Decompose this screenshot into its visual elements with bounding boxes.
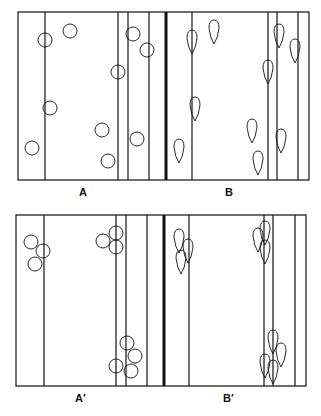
drop-particle — [209, 20, 219, 44]
round-particle — [28, 257, 42, 271]
round-particle — [63, 24, 77, 38]
round-particle — [128, 349, 142, 363]
drop-particle — [253, 228, 263, 252]
label-A-prime: A′ — [75, 392, 86, 404]
round-particle — [120, 336, 134, 350]
round-particle — [95, 123, 109, 137]
particles — [24, 20, 300, 384]
round-particle — [96, 234, 110, 248]
frames — [16, 12, 309, 386]
round-particle — [101, 154, 115, 168]
round-particle — [36, 244, 50, 258]
label-A: A — [79, 186, 87, 198]
label-B: B — [225, 186, 233, 198]
drop-particle — [253, 151, 263, 175]
round-particle — [130, 132, 144, 146]
figure-canvas — [0, 0, 321, 416]
drop-particle — [247, 119, 257, 143]
drop-particle — [174, 229, 184, 253]
frame-border — [18, 12, 309, 180]
label-B-prime: B′ — [223, 392, 234, 404]
drop-particle — [274, 24, 284, 48]
round-particle — [140, 43, 154, 57]
round-particle — [24, 235, 38, 249]
round-particle — [25, 141, 39, 155]
drop-particle — [174, 139, 184, 163]
